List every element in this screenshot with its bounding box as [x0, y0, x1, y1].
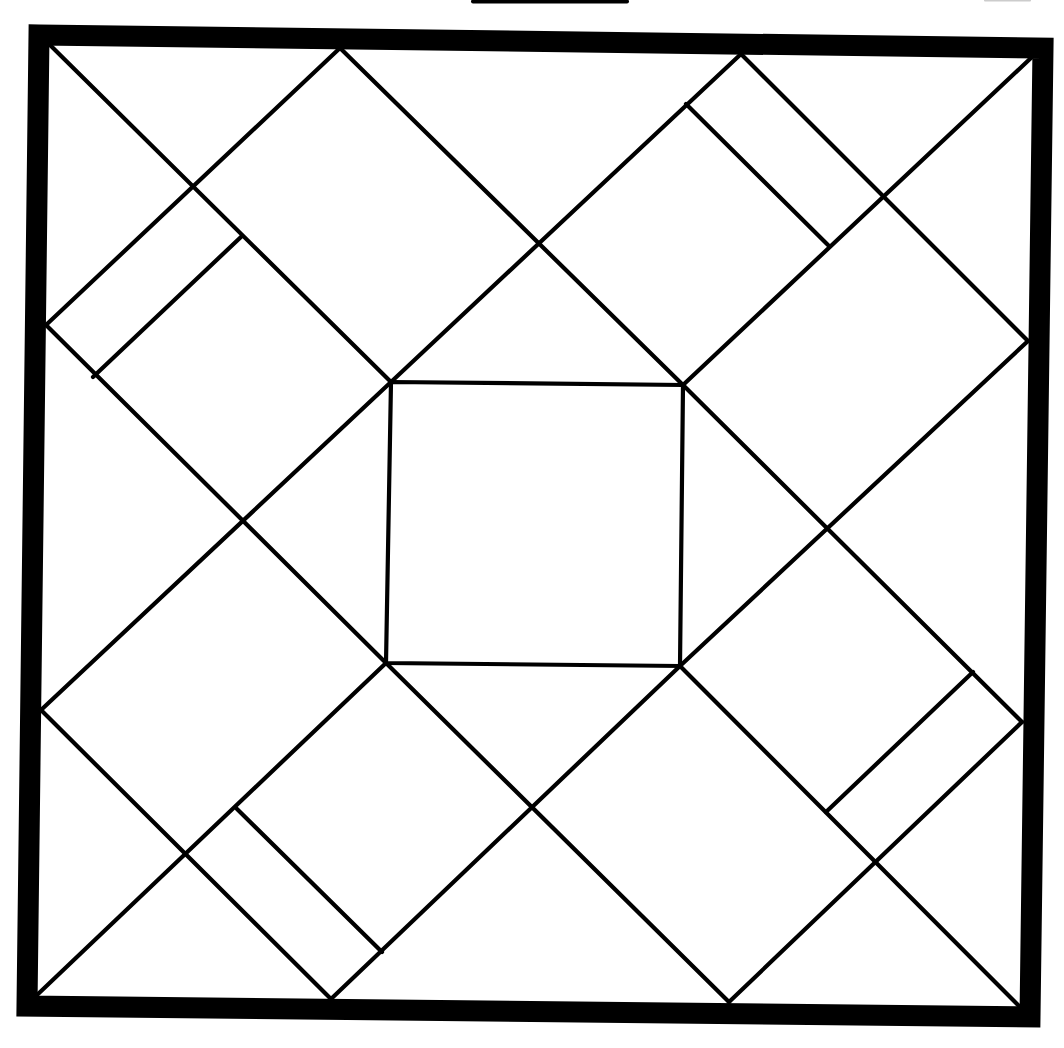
quilt-block-diagram [0, 0, 1064, 1048]
